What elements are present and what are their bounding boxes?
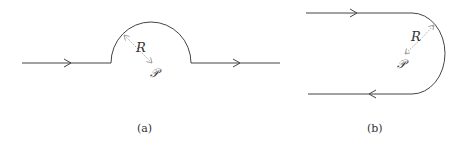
contour-a <box>22 22 280 63</box>
caption-a: (a) <box>137 122 152 135</box>
contour-b <box>306 13 445 94</box>
contour-figure: R 𝒫 (a) R 𝒫 (b) <box>0 0 465 142</box>
panel-b: R 𝒫 (b) <box>306 9 445 135</box>
point-label-b: 𝒫 <box>397 57 409 71</box>
panel-a: R 𝒫 (a) <box>22 22 280 135</box>
caption-b: (b) <box>367 122 383 135</box>
radius-label-a: R <box>135 40 146 55</box>
radius-label-b: R <box>410 29 421 44</box>
point-label-a: 𝒫 <box>150 66 162 80</box>
radius-dashed-arrow-b <box>420 25 434 40</box>
